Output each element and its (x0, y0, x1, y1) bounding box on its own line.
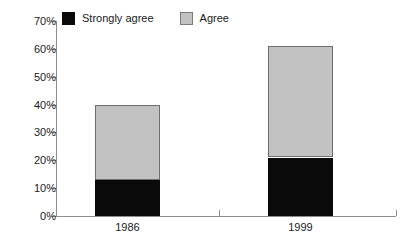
bar-1999 (268, 0, 333, 249)
y-axis-line (56, 21, 57, 217)
y-axis-tick-label: 60% (10, 44, 56, 55)
y-axis-tick-label: 10% (10, 183, 56, 194)
y-axis-tick-label: 70% (10, 16, 56, 27)
y-axis-tick-label: 0% (10, 211, 56, 222)
bar-1986 (95, 0, 160, 249)
y-axis-tick-label: 50% (10, 72, 56, 83)
x-axis-tick (396, 210, 397, 216)
x-axis-tick (56, 210, 57, 216)
x-axis-tick (219, 210, 220, 216)
bar-segment-1999-agree (268, 46, 333, 157)
y-axis-tick-label: 20% (10, 155, 56, 166)
bar-segment-1986-strongly-agree (95, 180, 160, 216)
y-axis-tick-label: 40% (10, 100, 56, 111)
bar-segment-1986-agree (95, 105, 160, 180)
bar-segment-1999-strongly-agree (268, 158, 333, 217)
chart-plot-area: 0%10%20%30%40%50%60%70% 19861999 (0, 0, 408, 249)
y-axis-tick-label: 30% (10, 127, 56, 138)
